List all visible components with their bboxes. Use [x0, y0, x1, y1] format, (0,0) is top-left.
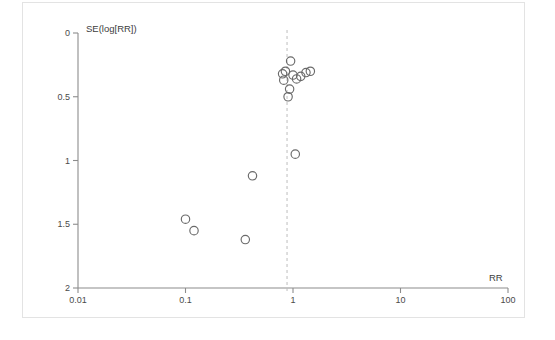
- y-tick-label: 0: [65, 28, 70, 38]
- x-tick-label: 1: [290, 295, 295, 305]
- data-points-group: [181, 57, 314, 244]
- x-tick-label: 0.01: [69, 295, 87, 305]
- x-axis-ticks: 0.010.1110100: [69, 288, 515, 305]
- x-tick-label: 100: [500, 295, 515, 305]
- y-axis-ticks: 00.511.52: [57, 28, 78, 293]
- y-tick-label: 0.5: [57, 92, 70, 102]
- data-point: [190, 226, 198, 234]
- y-tick-label: 2: [65, 283, 70, 293]
- data-point: [291, 150, 299, 158]
- x-tick-label: 10: [395, 295, 405, 305]
- x-tick-label: 0.1: [179, 295, 192, 305]
- data-point: [248, 172, 256, 180]
- funnel-plot-figure: 00.511.52 0.010.1110100 SE(log[RR]) RR: [0, 0, 555, 340]
- data-point: [241, 235, 249, 243]
- x-axis-title: RR: [489, 272, 503, 283]
- data-point: [284, 93, 292, 101]
- data-point: [181, 215, 189, 223]
- data-point: [285, 85, 293, 93]
- y-tick-label: 1: [65, 156, 70, 166]
- data-point: [286, 57, 294, 65]
- y-tick-label: 1.5: [57, 219, 70, 229]
- y-axis-title: SE(log[RR]): [86, 23, 137, 34]
- funnel-plot-canvas: 00.511.52 0.010.1110100 SE(log[RR]) RR: [0, 0, 555, 340]
